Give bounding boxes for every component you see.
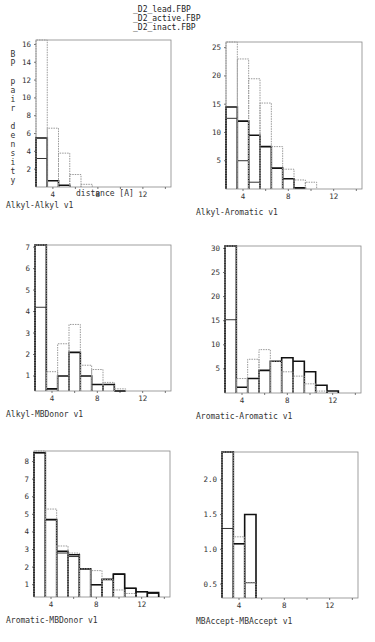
series-d2-active-fbp xyxy=(222,452,256,598)
y-tick-label: 0.5 xyxy=(203,580,217,589)
series-d2-inact-fbp xyxy=(222,452,256,598)
series-d2-lead-fbp xyxy=(222,528,256,598)
y-tick-label: 1.5 xyxy=(203,510,217,519)
chart-title: MBAccept-MBAccept v1 xyxy=(196,617,292,626)
plot-frame xyxy=(222,452,358,598)
x-tick-label: 4 xyxy=(237,601,242,610)
x-tick-label: 8 xyxy=(282,601,287,610)
x-tick-label: 12 xyxy=(325,601,334,610)
y-tick-label: 1.0 xyxy=(203,545,217,554)
y-tick-label: 2.0 xyxy=(203,475,217,484)
